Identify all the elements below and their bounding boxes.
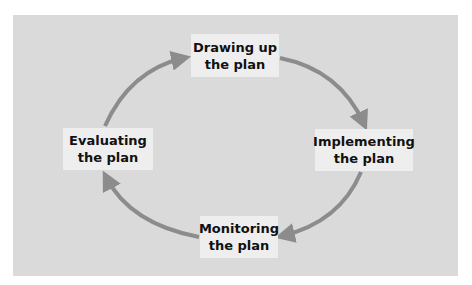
node-evaluating-the-plan: Evaluating the plan: [63, 128, 153, 170]
node-label-line2: the plan: [205, 56, 266, 73]
node-monitoring-the-plan: Monitoring the plan: [200, 216, 278, 258]
node-implementing-the-plan: Implementing the plan: [315, 129, 413, 171]
node-label-line1: Drawing up: [193, 39, 277, 56]
node-label-line1: Evaluating: [69, 132, 147, 149]
arrow-evaluating-to-drawing: [105, 58, 184, 126]
node-drawing-up-the-plan: Drawing up the plan: [191, 34, 279, 77]
node-label-line2: the plan: [209, 237, 270, 254]
node-label-line2: the plan: [334, 150, 395, 167]
arrow-monitoring-to-evaluating: [106, 177, 199, 237]
node-label-line2: the plan: [78, 149, 139, 166]
arrow-implementing-to-monitoring: [282, 172, 361, 236]
arrow-drawing-to-implementing: [280, 58, 364, 124]
node-label-line1: Monitoring: [199, 220, 279, 237]
node-label-line1: Implementing: [313, 133, 415, 150]
